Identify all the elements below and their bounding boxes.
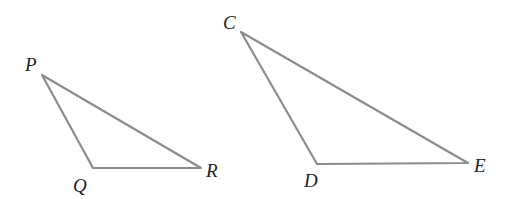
triangle-pqr-outline: [42, 75, 201, 168]
triangle-cde-outline: [241, 32, 468, 164]
vertex-label-q: Q: [73, 175, 87, 196]
vertex-label-r: R: [205, 160, 218, 181]
vertex-label-p: P: [24, 54, 37, 75]
vertex-label-c: C: [223, 12, 236, 33]
triangle-pqr: P Q R: [24, 54, 218, 196]
vertex-label-d: D: [303, 170, 318, 191]
triangle-cde: C D E: [223, 12, 486, 191]
diagram-canvas: P Q R C D E: [0, 0, 507, 199]
vertex-label-e: E: [473, 155, 486, 176]
